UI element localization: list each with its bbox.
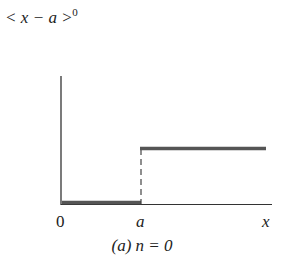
figure-caption: (a) n = 0 [0, 236, 284, 256]
x-tick-a: a [136, 212, 145, 232]
x-axis-label: x [262, 212, 270, 232]
x-tick-0: 0 [56, 212, 65, 232]
